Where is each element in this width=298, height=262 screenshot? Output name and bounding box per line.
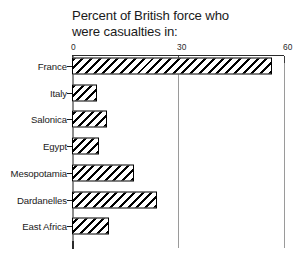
bar[interactable] bbox=[72, 84, 97, 101]
bar[interactable] bbox=[72, 218, 109, 235]
bar[interactable] bbox=[72, 191, 157, 208]
gridline bbox=[178, 56, 179, 248]
bar[interactable] bbox=[72, 111, 107, 128]
y-category-label: Dardanelles bbox=[17, 194, 72, 205]
bar[interactable] bbox=[72, 138, 99, 155]
y-category-label: East Africa bbox=[22, 221, 72, 232]
bar[interactable] bbox=[72, 58, 272, 75]
gridline bbox=[284, 56, 285, 248]
x-tick-mark bbox=[284, 56, 285, 63]
bar[interactable] bbox=[72, 164, 134, 181]
y-category-label: Mesopotamia bbox=[11, 167, 73, 178]
x-tick-label: 60 bbox=[283, 42, 292, 52]
x-tick-label: 30 bbox=[177, 42, 186, 52]
plot-area: 03060 FranceItalySalonicaEgyptMesopotami… bbox=[0, 0, 298, 262]
x-tick-label: 0 bbox=[71, 42, 76, 52]
chart-container: Percent of British force who were casual… bbox=[0, 0, 298, 262]
y-category-label: Salonica bbox=[31, 114, 72, 125]
axis-bottom-nub bbox=[72, 241, 74, 249]
